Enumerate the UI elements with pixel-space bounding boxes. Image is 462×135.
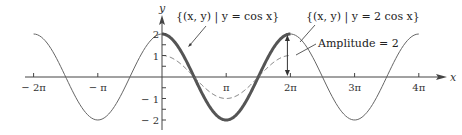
y-tick-label: 2 [153, 29, 159, 40]
y-tick-label: − 1 [141, 94, 159, 105]
y-tick-label: 1 [153, 51, 159, 62]
annotation-two-cos: {(x, y) | y = 2 cos x} [306, 10, 420, 24]
y-axis-label: y [158, 2, 166, 15]
x-tick-label: 2π [284, 82, 297, 93]
annotation-amplitude: Amplitude = 2 [317, 37, 399, 50]
annotations: {(x, y) | y = cos x} {(x, y) | y = 2 cos… [176, 10, 420, 55]
cosine-graph: xy − 2π− ππ2π3π4π21− 1− 2 {(x, y) | y = … [0, 0, 462, 135]
x-axis-label: x [450, 71, 457, 84]
y-tick-label: − 2 [141, 115, 159, 126]
leader-two-cos [300, 25, 315, 42]
x-tick-label: − 2π [21, 82, 46, 93]
annotation-cos: {(x, y) | y = cos x} [176, 10, 279, 24]
amplitude-arrow-down-icon [285, 70, 290, 76]
x-tick-label: 3π [348, 82, 361, 93]
x-tick-label: π [223, 82, 230, 93]
x-tick-label: 4π [412, 82, 425, 93]
leader-cos [190, 26, 206, 45]
x-tick-label: − π [89, 82, 108, 93]
